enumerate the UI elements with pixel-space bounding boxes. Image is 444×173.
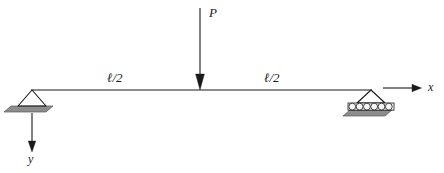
left-half-span-label: ℓ/2 — [107, 71, 123, 84]
diagram-canvas — [0, 0, 444, 173]
right-half-span-label: ℓ/2 — [264, 71, 280, 84]
y-axis-label: y — [28, 153, 33, 165]
roller-support-graphic — [343, 90, 394, 116]
pin-support-graphic — [4, 90, 53, 112]
x-axis-arrow — [383, 84, 422, 92]
y-axis-arrow — [28, 113, 36, 152]
point-load-arrow — [196, 8, 205, 90]
x-axis-label: x — [428, 81, 433, 93]
point-load-label: P — [209, 6, 217, 19]
beam-diagram: P ℓ/2 ℓ/2 x y — [0, 0, 444, 173]
